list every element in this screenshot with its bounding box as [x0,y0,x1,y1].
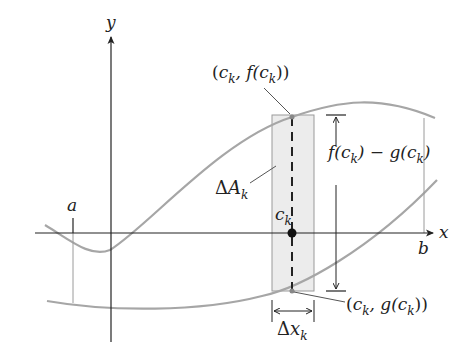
leader-top-point [264,88,290,114]
point-f-ck [290,115,295,120]
area-between-curves-diagram: y x a b ck ΔAk Δxk (ck, f(ck)) f(ck) − g… [0,0,466,358]
bottom-point-label: (ck, g(ck)) [346,294,428,318]
delta-a-label: ΔAk [215,177,248,202]
leader-bottom-point [294,292,345,302]
area-rectangle [272,115,314,291]
point-ck [288,229,297,238]
point-g-ck [290,289,295,294]
top-point-label: (ck, f(ck)) [212,62,289,86]
a-label: a [67,195,77,215]
b-label: b [418,238,429,258]
x-axis-label: x [439,222,449,242]
delta-x-label: Δxk [277,318,307,343]
height-label: f(ck) − g(ck) [326,142,430,166]
y-axis-label: y [105,12,116,32]
